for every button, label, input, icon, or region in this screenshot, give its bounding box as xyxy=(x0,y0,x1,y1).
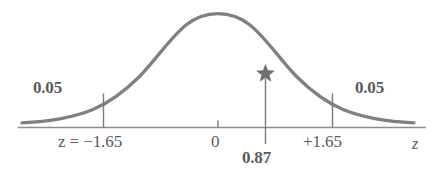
normal-curve xyxy=(22,14,414,123)
normal-distribution-figure: 0.05 0.05 z = −1.65 0 +1.65 z 0.87 xyxy=(0,0,434,174)
right-tail-area-label: 0.05 xyxy=(355,79,384,96)
x-axis-label: z xyxy=(412,136,418,152)
x-tick-label-negative: z = −1.65 xyxy=(58,133,122,150)
x-tick-label-zero: 0 xyxy=(211,133,219,150)
statistic-value-label: 0.87 xyxy=(242,149,271,166)
left-tail-area-label: 0.05 xyxy=(33,79,62,96)
x-tick-label-positive: +1.65 xyxy=(303,133,342,150)
